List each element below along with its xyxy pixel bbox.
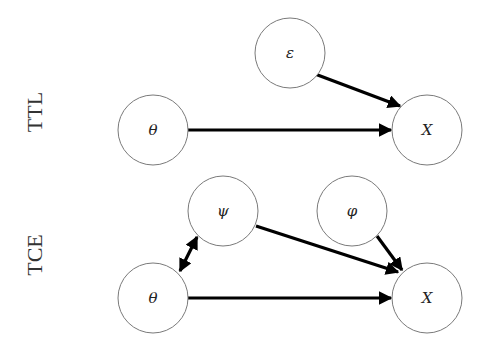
node-label: θ xyxy=(148,121,157,139)
node-tce-x: X xyxy=(392,263,462,333)
row-label-tce: TCE xyxy=(22,234,47,276)
node-ttl-epsilon: ε xyxy=(255,18,325,88)
node-label: X xyxy=(421,121,434,139)
node-tce-theta: θ xyxy=(118,263,188,333)
row-label-ttl: TTL xyxy=(22,92,47,132)
edge-theta-psi-bidirected xyxy=(180,237,197,271)
node-tce-phi: φ xyxy=(317,176,387,246)
node-label: φ xyxy=(347,202,358,220)
causal-diagram: TTL TCE θ ε X θ ψ φ X xyxy=(0,0,485,350)
node-label: θ xyxy=(148,289,157,307)
node-tce-psi: ψ xyxy=(188,176,258,246)
edge-eps-to-x xyxy=(315,74,400,106)
node-ttl-theta: θ xyxy=(118,95,188,165)
node-label: X xyxy=(421,289,434,307)
node-label: ψ xyxy=(217,202,229,220)
node-ttl-x: X xyxy=(392,95,462,165)
node-label: ε xyxy=(286,44,294,62)
